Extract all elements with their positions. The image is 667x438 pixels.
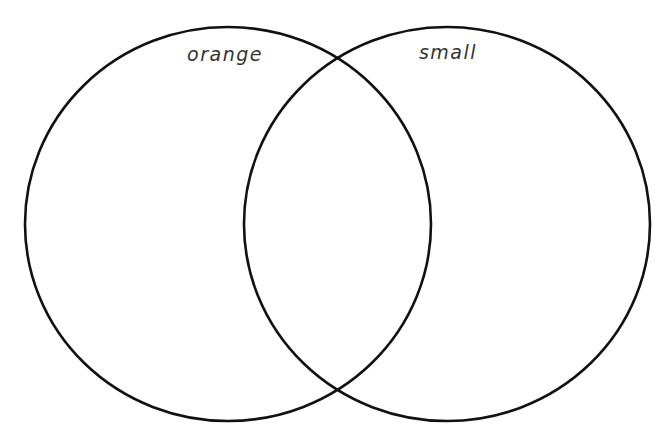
set-small-circle [244,27,650,421]
venn-diagram [0,0,667,438]
set-orange-label: orange [187,43,263,65]
set-small-label: small [419,41,477,63]
set-orange-circle [25,27,431,421]
